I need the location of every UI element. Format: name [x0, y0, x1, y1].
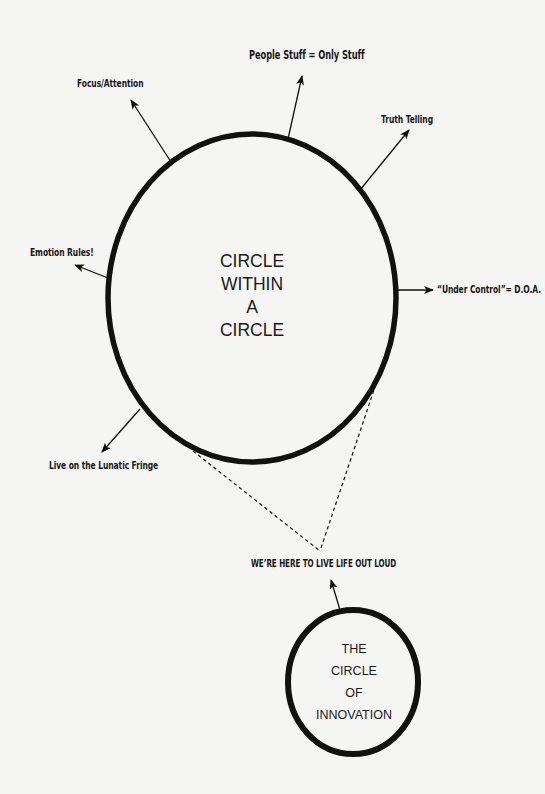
main-circle-line-3: A — [220, 296, 284, 319]
label-live-out-loud: WE’RE HERE TO LIVE LIFE OUT LOUD — [251, 558, 396, 569]
arrow-lunatic-fringe — [102, 409, 140, 452]
arrow-truth-telling — [360, 130, 409, 190]
main-circle-title: CIRCLE WITHIN A CIRCLE — [220, 250, 284, 342]
label-people-stuff: People Stuff = Only Stuff — [249, 48, 365, 62]
label-focus-attention: Focus/Attention — [77, 77, 143, 89]
dashed-line-left — [193, 451, 320, 551]
innovation-line-1: THE — [316, 638, 392, 660]
main-circle-line-1: CIRCLE — [220, 250, 284, 273]
diagram-canvas — [0, 0, 545, 794]
arrow-emotion-rules — [75, 265, 108, 278]
label-under-control: “Under Control”= D.O.A. — [437, 283, 541, 295]
main-circle-line-4: CIRCLE — [220, 319, 284, 342]
arrow-focus-attention — [131, 100, 171, 162]
innovation-line-3: OF — [316, 682, 392, 704]
main-circle-line-2: WITHIN — [220, 273, 284, 296]
innovation-circle-title: THE CIRCLE OF INNOVATION — [316, 638, 392, 726]
dashed-line-right — [320, 372, 380, 551]
label-lunatic-fringe: Live on the Lunatic Fringe — [49, 459, 158, 471]
label-emotion-rules: Emotion Rules! — [30, 246, 94, 258]
innovation-line-2: CIRCLE — [316, 660, 392, 682]
label-truth-telling: Truth Telling — [381, 113, 433, 125]
arrow-live-out-loud — [331, 580, 340, 610]
innovation-line-4: INNOVATION — [316, 704, 392, 726]
arrow-people-stuff — [288, 76, 302, 139]
